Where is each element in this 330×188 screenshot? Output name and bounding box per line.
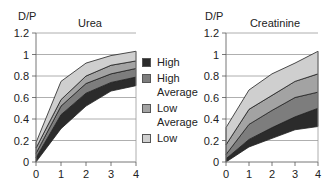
legend-item-high-average: High Average [142,71,212,99]
legend-item-high: High [142,55,212,69]
y-tick-label: 0 [213,156,219,168]
y-axis-label: D/P [205,10,223,22]
legend-swatch-low-average [142,104,151,113]
legend-label: Low [157,131,177,145]
legend-label: Low Average [157,101,198,129]
y-tick-label: 0.2 [14,135,29,147]
y-tick-label: 0.8 [14,70,29,82]
legend-swatch-high-average [142,74,151,83]
legend-label: High [157,55,180,69]
x-tick-label: 2 [83,168,89,180]
y-tick-label: 1 [23,49,29,61]
chart-title: Creatinine [250,17,300,29]
x-tick-label: 2 [269,168,275,180]
legend-swatch-high [142,58,151,67]
x-tick-label: 3 [292,168,298,180]
x-tick-label: 3 [108,168,114,180]
x-tick-label: 0 [33,168,39,180]
y-tick-label: 1 [213,49,219,61]
legend-item-low: Low [142,131,212,145]
x-tick-label: 1 [58,168,64,180]
y-tick-label: 0 [23,156,29,168]
y-tick-label: 0.4 [14,113,29,125]
x-tick-label: 1 [246,168,252,180]
legend: High High Average Low Average Low [142,55,212,147]
legend-label: High Average [157,71,198,99]
x-tick-label: 0 [223,168,229,180]
x-tick-label: 4 [315,168,321,180]
y-tick-label: 1.2 [204,27,219,39]
chart-title: Urea [78,17,103,29]
legend-swatch-low [142,134,151,143]
y-axis-label: D/P [18,10,36,22]
chart-urea: 00.20.40.60.811.201234D/PUrea [14,10,139,180]
y-tick-label: 0.6 [14,92,29,104]
x-tick-label: 4 [133,168,139,180]
chart-creatinine: 00.20.40.60.811.201234D/PCreatinine [204,10,321,180]
y-tick-label: 1.2 [14,27,29,39]
legend-item-low-average: Low Average [142,101,212,129]
